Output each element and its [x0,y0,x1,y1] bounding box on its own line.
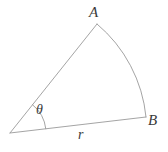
angle-label-theta: θ [36,103,43,117]
sector-arc-ab [97,24,146,117]
vertex-label-b: B [148,113,157,128]
sector-diagram: A B θ r [0,0,168,152]
vertex-label-a: A [89,5,98,20]
radius-line-to-a [10,24,97,133]
radius-label-r: r [78,128,83,142]
sector-svg-canvas [0,0,168,152]
